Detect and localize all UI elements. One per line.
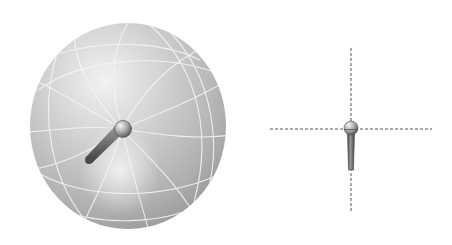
mic-handle-small (348, 134, 355, 170)
figure-canvas: Omnidirectional microphone polar pickup … (0, 0, 452, 245)
mic-head-small (344, 121, 358, 135)
diagram-svg (0, 0, 452, 245)
top-microphone (344, 121, 358, 170)
